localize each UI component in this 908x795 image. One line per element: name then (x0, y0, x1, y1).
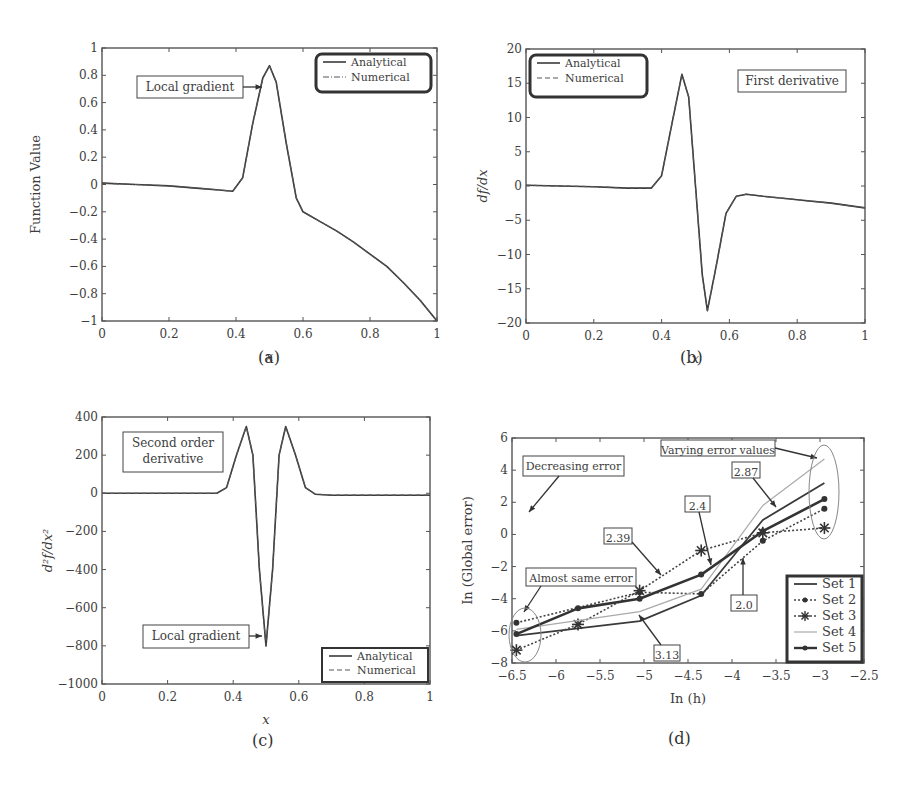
legend-label: Set 1 (822, 576, 856, 591)
chart-b-annotations: First derivative (738, 70, 846, 92)
y-tick-label: 0 (90, 178, 98, 192)
y-tick-label: 0 (514, 179, 522, 193)
y-tick-label: −15 (497, 282, 522, 296)
x-tick-label: 0.8 (355, 690, 374, 704)
y-tick-label: −200 (65, 524, 98, 538)
x-tick-label: 0.2 (158, 690, 177, 704)
legend-label: Analytical (564, 57, 621, 70)
chart-d-legend: Set 1Set 2Set 3Set 4Set 5 (787, 576, 862, 662)
chart-a-annotations: Local gradient (137, 76, 262, 98)
x-tick-label: −5 (635, 669, 653, 683)
legend-label: Numerical (565, 72, 624, 85)
y-tick-label: 0 (500, 527, 508, 541)
chart-c-annotations: Second orderderivativeLocal gradient (123, 432, 262, 648)
legend-label: Analytical (350, 56, 407, 69)
x-tick-label: −3 (811, 669, 829, 683)
x-tick-label: 0.8 (360, 327, 379, 341)
x-tick-label: 1 (861, 329, 869, 343)
chart-b-legend: AnalyticalNumerical (530, 55, 647, 97)
x-tick-label: 0.8 (788, 329, 807, 343)
annotation-label: 2.87 (734, 466, 759, 479)
y-tick-label: −8 (490, 656, 508, 670)
y-tick-label: 400 (75, 410, 98, 424)
x-axis-label: x (262, 712, 270, 727)
x-tick-label: 0.6 (720, 329, 739, 343)
y-tick-label: −2 (490, 560, 508, 574)
chart-b: 00.20.40.60.8120151050−5−10−15−20xdf/dxA… (454, 0, 908, 380)
x-axis-label: In (h) (670, 691, 706, 706)
annotation-label: derivative (143, 452, 204, 466)
y-tick-label: 0.8 (79, 68, 98, 82)
x-tick-label: −5.5 (585, 669, 614, 683)
x-tick-label: 0.2 (159, 327, 178, 341)
annotation-label: 3.13 (655, 649, 680, 662)
annotation-label: Second order (132, 436, 214, 450)
series-set-4 (516, 459, 824, 629)
legend-label: Analytical (356, 650, 413, 663)
chart-c-legend: AnalyticalNumerical (322, 648, 428, 682)
annotation-label: 2.39 (606, 532, 631, 545)
chart-b-plot: 00.20.40.60.8120151050−5−10−15−20xdf/dxA… (454, 0, 908, 380)
legend-label: Numerical (357, 664, 416, 677)
annotation-label: 2.0 (735, 599, 753, 612)
y-tick-label: 4 (500, 463, 508, 477)
caption-c: (c) (252, 731, 273, 750)
annotation-label: Local gradient (152, 629, 241, 643)
x-tick-label: 1 (433, 327, 441, 341)
annotation-label: First derivative (745, 74, 839, 88)
y-tick-label: −4 (490, 592, 508, 606)
y-tick-label: −0.4 (69, 232, 99, 246)
legend-label: Numerical (351, 71, 410, 84)
caption-d: (d) (668, 729, 691, 748)
y-tick-label: −0.8 (69, 287, 98, 301)
y-tick-label: 200 (75, 448, 98, 462)
y-tick-label: 0.2 (79, 150, 98, 164)
legend-label: Set 2 (822, 592, 856, 607)
x-tick-label: −6.5 (497, 669, 526, 683)
series-set-5 (513, 496, 827, 637)
x-tick-label: 1 (426, 690, 434, 704)
y-axis-label: Function Value (28, 135, 43, 234)
legend-label: Set 4 (822, 624, 856, 639)
annotation-label: Varying error values (660, 444, 775, 457)
series-numerical (102, 66, 437, 321)
y-tick-label: 15 (507, 76, 522, 90)
annotation-label: Almost same error (528, 572, 633, 585)
x-tick-label: 0 (98, 327, 106, 341)
x-tick-label: 0.6 (293, 327, 312, 341)
y-axis-label: df/dx (475, 169, 490, 203)
y-tick-label: −600 (65, 601, 98, 615)
annotation-label: Decreasing error (526, 460, 622, 473)
series-set-3 (510, 522, 830, 656)
y-tick-label: −400 (65, 563, 98, 577)
x-tick-label: 0.6 (289, 690, 308, 704)
y-tick-label: 1 (90, 41, 98, 55)
series-set-1 (516, 483, 824, 636)
x-tick-label: −4.5 (673, 669, 702, 683)
x-tick-label: 0.4 (652, 329, 671, 343)
x-tick-label: 0 (522, 329, 530, 343)
y-axis-label: d²f/dx² (40, 529, 55, 573)
x-tick-label: −6 (547, 669, 565, 683)
series-numerical (526, 74, 865, 310)
y-tick-label: −1000 (57, 677, 98, 691)
x-tick-label: 0.4 (224, 690, 243, 704)
y-tick-label: −1 (80, 314, 98, 328)
x-tick-label: 0 (98, 690, 106, 704)
chart-a-plot: 00.20.40.60.8110.80.60.40.20−0.2−0.4−0.6… (0, 0, 454, 380)
y-tick-label: 20 (507, 42, 522, 56)
y-tick-label: −0.6 (69, 259, 98, 273)
y-tick-label: −10 (497, 248, 522, 262)
x-tick-label: −3.5 (761, 669, 790, 683)
y-tick-label: 6 (500, 431, 508, 445)
chart-c: 00.20.40.60.814002000−200−400−600−800−10… (0, 400, 454, 795)
y-tick-label: −20 (497, 316, 522, 330)
chart-c-plot: 00.20.40.60.814002000−200−400−600−800−10… (0, 400, 454, 795)
y-tick-label: −0.2 (69, 205, 98, 219)
x-tick-label: −4 (723, 669, 741, 683)
y-tick-label: 0 (90, 486, 98, 500)
y-tick-label: 2 (500, 495, 508, 509)
x-tick-label: −2.5 (849, 669, 878, 683)
y-tick-label: −5 (504, 213, 522, 227)
caption-a: (a) (258, 348, 280, 367)
